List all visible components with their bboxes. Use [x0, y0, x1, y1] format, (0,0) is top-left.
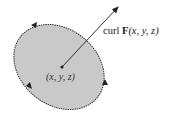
- center-point: [60, 65, 63, 68]
- point-label: (x, y, z): [46, 71, 75, 82]
- curl-label: curl F(x, y, z): [103, 25, 159, 36]
- curl-diagram: [0, 0, 173, 118]
- curl-prefix: curl: [103, 25, 122, 36]
- curl-args: (x, y, z): [128, 25, 158, 36]
